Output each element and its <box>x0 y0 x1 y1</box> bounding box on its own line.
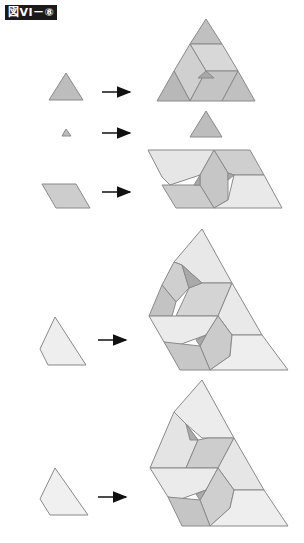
result-triangle-2 <box>190 111 222 137</box>
source-quadrilateral-1 <box>40 317 86 365</box>
diagram-canvas <box>0 0 304 543</box>
result-rhombus <box>148 150 282 208</box>
source-small-triangle <box>62 129 71 136</box>
result-triangle-1 <box>157 19 255 101</box>
source-rhombus <box>42 184 90 208</box>
source-quadrilateral-2 <box>40 468 88 515</box>
result-quadrilateral-1 <box>149 229 288 370</box>
source-triangle <box>49 73 83 100</box>
result-quadrilateral-2 <box>150 380 288 526</box>
